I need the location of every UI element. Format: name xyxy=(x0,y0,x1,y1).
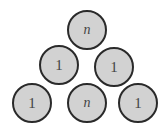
node-bottom-middle: n xyxy=(67,83,107,123)
node-bottom-left: 1 xyxy=(12,83,52,123)
node-label: n xyxy=(84,22,91,38)
node-label: n xyxy=(84,95,91,111)
node-top: n xyxy=(67,10,107,50)
node-middle-right: 1 xyxy=(94,47,134,87)
node-label: 1 xyxy=(55,57,63,74)
node-label: 1 xyxy=(110,59,118,76)
node-label: 1 xyxy=(28,95,36,112)
node-bottom-right: 1 xyxy=(118,83,158,123)
node-middle-left: 1 xyxy=(39,45,79,85)
node-label: 1 xyxy=(134,95,142,112)
